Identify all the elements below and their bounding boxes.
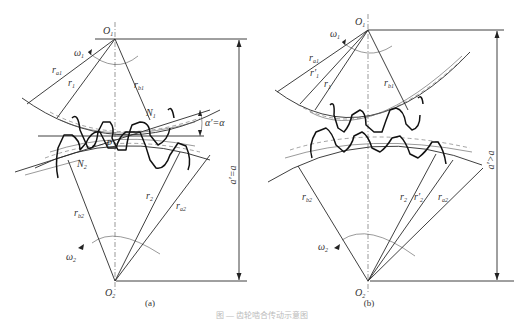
r2-prime-label: r′2 [414, 191, 423, 203]
radius-r2-prime [368, 160, 453, 281]
arrow-head-icon [495, 273, 500, 280]
ra2-label: ra2 [176, 200, 186, 212]
rb2-label: rb2 [74, 207, 84, 219]
r1-label: r1 [68, 77, 75, 89]
gear1-pitch-circle [50, 112, 200, 132]
radius-ra1 [277, 30, 368, 92]
panel-a: a′=a O1 O2 [15, 22, 247, 308]
r1-prime-label: r′1 [310, 67, 319, 79]
r2-label: r2 [146, 190, 153, 202]
center-o1-label: O1 [103, 25, 113, 37]
radius-r2 [368, 154, 436, 281]
figure-caption: 图 — 齿轮啮合传动示意图 [216, 310, 308, 320]
omega2-arc [92, 236, 160, 254]
diagram-canvas: a′=a O1 O2 [0, 0, 524, 321]
rb1-label: rb1 [134, 79, 144, 91]
radius-ra2 [368, 168, 483, 281]
pressure-angle-label: α′=α [205, 117, 225, 128]
r1-label: r1 [324, 78, 331, 90]
rotation-arrow-icon [342, 39, 346, 45]
omega1-arc [342, 42, 392, 53]
radius-ra1 [27, 39, 115, 104]
ra2-label: ra2 [438, 191, 448, 203]
panel-b: a′>a O1 O2 ω1 ω2 ra1 r′1 r1 [268, 14, 514, 308]
rotation-arrow-icon [334, 244, 340, 250]
pitch-point-label: P [105, 138, 112, 149]
center-distance-label: a′=a [227, 166, 238, 185]
omega1-label: ω1 [74, 47, 84, 59]
arrow-head-icon [237, 40, 242, 47]
center-o2-label: O2 [105, 287, 115, 299]
panel-a-label: (a) [145, 298, 155, 308]
n1-label: N1 [145, 107, 156, 119]
gear-mesh-figure: a′=a O1 O2 [0, 0, 524, 321]
omega2-arc [342, 234, 415, 256]
radius-r1 [57, 39, 115, 118]
radius-ra2 [115, 155, 210, 281]
gear1-addendum-circle [275, 52, 470, 118]
omega2-label: ω2 [318, 241, 328, 253]
rb2-label: rb2 [302, 191, 312, 203]
n2-label: N2 [76, 158, 87, 170]
radius-r2 [115, 152, 180, 281]
rotation-arrow-icon [78, 244, 84, 250]
radius-r1 [315, 30, 368, 110]
arrow-head-icon [198, 130, 202, 136]
gear2-teeth [57, 132, 190, 178]
radius-rb1 [115, 39, 150, 120]
ra1-label: ra1 [309, 52, 319, 64]
omega2-label: ω2 [66, 251, 76, 263]
arrow-head-icon [495, 31, 500, 38]
r2-label: r2 [400, 191, 407, 203]
panel-b-label: (b) [364, 298, 375, 308]
line-of-action-ext [25, 160, 80, 175]
omega1-label: ω1 [330, 28, 340, 40]
gear1-pitch-circle [297, 55, 467, 119]
line-of-action [15, 110, 210, 172]
ra1-label: ra1 [52, 64, 62, 76]
radius-rb1 [368, 30, 408, 110]
rotation-arrow-icon [88, 49, 92, 55]
radius-rb2 [298, 166, 368, 281]
arrow-head-icon [237, 273, 242, 280]
center-distance-label: a′>a [485, 151, 496, 170]
center-o1-label: O1 [355, 16, 365, 28]
